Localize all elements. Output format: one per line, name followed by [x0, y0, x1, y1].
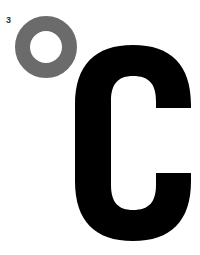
celsius-c-letter — [75, 45, 192, 241]
degree-ring-icon — [15, 16, 77, 78]
letter-c-glyph — [75, 45, 192, 241]
item-number: 3 — [6, 15, 11, 25]
